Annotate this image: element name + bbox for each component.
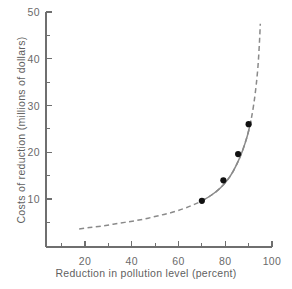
y-axis-title: Costs of reduction (millions of dollars) <box>14 10 28 250</box>
x-tick-label: 20 <box>79 256 91 267</box>
x-tick-label: 60 <box>172 256 184 267</box>
x-tick-label: 80 <box>219 256 231 267</box>
data-point-marker <box>220 177 226 183</box>
x-axis-ticks <box>62 241 272 247</box>
x-tick-label: 40 <box>126 256 138 267</box>
data-point-marker <box>199 198 205 204</box>
x-axis-title: Reduction in pollution level (percent) <box>0 268 292 279</box>
cost-curve-solid-segment <box>202 120 251 200</box>
y-axis-ticks <box>46 12 52 222</box>
plot-area <box>0 0 292 289</box>
axis-lines <box>46 12 272 247</box>
chart-figure: 1020304050 20406080100 Costs of reductio… <box>0 0 292 289</box>
cost-curve-line <box>79 24 260 229</box>
data-point-marker <box>246 121 252 127</box>
data-point-markers <box>199 121 252 204</box>
x-tick-label: 100 <box>263 256 282 267</box>
data-point-marker <box>235 151 241 157</box>
